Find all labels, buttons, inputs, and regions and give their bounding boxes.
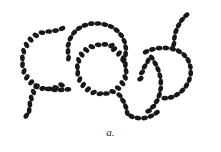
- figure-caption: a.: [0, 126, 221, 139]
- coccus-cell: [158, 79, 163, 86]
- coccus-cell: [51, 87, 58, 92]
- figure-container: a.: [0, 0, 221, 152]
